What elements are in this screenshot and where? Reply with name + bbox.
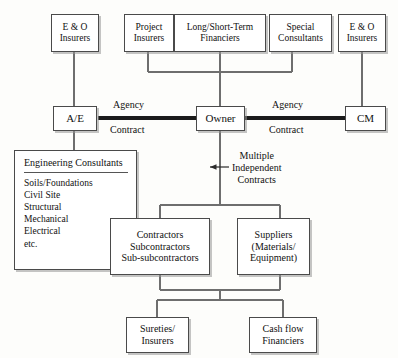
contractors-line-2: Subcontractors bbox=[130, 241, 190, 253]
cm-label: CM bbox=[357, 112, 374, 125]
financiers-line-1: Long/Short-Term bbox=[187, 22, 253, 33]
eo-insurers-right-line-2: Insurers bbox=[347, 33, 378, 44]
label-contract-left: Contract bbox=[110, 124, 144, 135]
engineering-consultants-item-structural: Structural bbox=[24, 201, 128, 213]
node-owner[interactable]: Owner bbox=[196, 106, 245, 131]
multiple-contracts-arrow bbox=[210, 164, 229, 170]
node-cm[interactable]: CM bbox=[345, 106, 386, 131]
suppliers-line-3: Equipment) bbox=[250, 252, 297, 264]
node-special-consultants[interactable]: Special Consultants bbox=[269, 14, 332, 52]
contractors-line-3: Sub-subcontractors bbox=[121, 252, 198, 264]
node-suppliers[interactable]: Suppliers (Materials/ Equipment) bbox=[237, 218, 310, 275]
node-long-short-term-financiers[interactable]: Long/Short-Term Financiers bbox=[174, 14, 266, 52]
project-insurers-line-2: Insurers bbox=[134, 33, 165, 44]
sureties-line-1: Sureties/ bbox=[140, 323, 175, 335]
label-agency-left: Agency bbox=[113, 99, 144, 110]
cash-flow-line-2: Financiers bbox=[262, 335, 304, 347]
organization-diagram: E & O Insurers Project Insurers Long/Sho… bbox=[0, 0, 398, 358]
annotation-line-1: Multiple bbox=[232, 150, 281, 162]
contractors-line-1: Contractors bbox=[137, 229, 184, 241]
owner-label: Owner bbox=[206, 112, 236, 125]
label-contract-right: Contract bbox=[269, 124, 303, 135]
special-consultants-line-2: Consultants bbox=[278, 33, 323, 44]
node-eo-insurers-right[interactable]: E & O Insurers bbox=[338, 14, 386, 52]
special-consultants-line-1: Special bbox=[287, 22, 315, 33]
node-cash-flow-financiers[interactable]: Cash flow Financiers bbox=[249, 317, 317, 353]
annotation-multiple-independent-contracts: Multiple Independent Contracts bbox=[232, 150, 281, 187]
ae-label: A/E bbox=[66, 112, 84, 125]
cash-flow-line-1: Cash flow bbox=[263, 323, 304, 335]
node-sureties-insurers[interactable]: Sureties/ Insurers bbox=[126, 317, 189, 353]
node-project-insurers[interactable]: Project Insurers bbox=[124, 14, 174, 52]
engineering-consultants-item-soils: Soils/Foundations bbox=[24, 177, 128, 189]
eo-insurers-left-line-2: Insurers bbox=[60, 33, 91, 44]
annotation-line-3: Contracts bbox=[232, 174, 281, 186]
suppliers-line-1: Suppliers bbox=[255, 229, 293, 241]
suppliers-line-2: (Materials/ bbox=[252, 241, 296, 253]
engineering-consultants-item-civil: Civil Site bbox=[24, 189, 128, 201]
node-ae[interactable]: A/E bbox=[53, 106, 97, 131]
node-eo-insurers-left[interactable]: E & O Insurers bbox=[51, 14, 99, 52]
eo-insurers-right-line-1: E & O bbox=[350, 22, 375, 33]
eo-insurers-left-line-1: E & O bbox=[63, 22, 88, 33]
annotation-line-2: Independent bbox=[232, 162, 281, 174]
label-agency-right: Agency bbox=[272, 99, 303, 110]
financiers-line-2: Financiers bbox=[200, 33, 240, 44]
node-contractors[interactable]: Contractors Subcontractors Sub-subcontra… bbox=[110, 218, 210, 275]
engineering-consultants-title: Engineering Consultants bbox=[24, 157, 128, 173]
project-insurers-line-1: Project bbox=[136, 22, 163, 33]
sureties-line-2: Insurers bbox=[141, 335, 173, 347]
